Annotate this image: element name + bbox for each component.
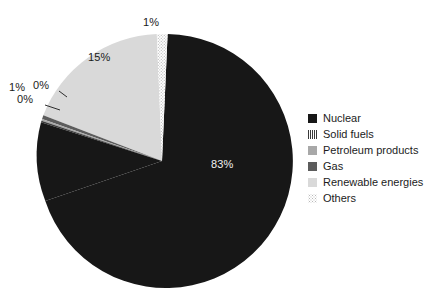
pie-chart-svg [0, 0, 300, 303]
legend-label-others: Others [323, 192, 356, 204]
pie-value-label-petroleum-products: 0% [33, 80, 49, 91]
legend-item-others: Others [308, 190, 432, 206]
legend-swatch-gas-icon [308, 162, 317, 171]
pie-value-label-nuclear: 83% [211, 159, 233, 170]
chart-legend: Nuclear Solid fuels Petroleum products G… [308, 110, 432, 206]
legend-label-gas: Gas [323, 160, 343, 172]
legend-item-renewable-energies: Renewable energies [308, 174, 432, 190]
legend-label-petroleum-products: Petroleum products [323, 144, 418, 156]
pie-value-label-others: 1% [143, 17, 159, 28]
legend-item-nuclear: Nuclear [308, 110, 432, 126]
pie-value-label-gas: 1% [9, 82, 25, 93]
legend-item-gas: Gas [308, 158, 432, 174]
legend-item-petroleum-products: Petroleum products [308, 142, 432, 158]
pie-value-label-renewable-energies: 15% [88, 52, 110, 63]
legend-swatch-petroleum-products-icon [308, 146, 317, 155]
legend-label-nuclear: Nuclear [323, 112, 361, 124]
legend-swatch-others-icon [308, 194, 317, 203]
legend-swatch-renewable-energies-icon [308, 178, 317, 187]
pie-value-label-solid-fuels: 0% [17, 94, 33, 105]
legend-swatch-nuclear-icon [308, 114, 317, 123]
legend-item-solid-fuels: Solid fuels [308, 126, 432, 142]
legend-swatch-solid-fuels-icon [308, 130, 317, 139]
pie-chart-plot-area: 1% 15% 1% 0% 0% 83% [0, 0, 300, 303]
legend-label-renewable-energies: Renewable energies [323, 176, 423, 188]
legend-label-solid-fuels: Solid fuels [323, 128, 374, 140]
pie-chart-figure: 1% 15% 1% 0% 0% 83% Nuclear Solid fuels … [0, 0, 433, 303]
